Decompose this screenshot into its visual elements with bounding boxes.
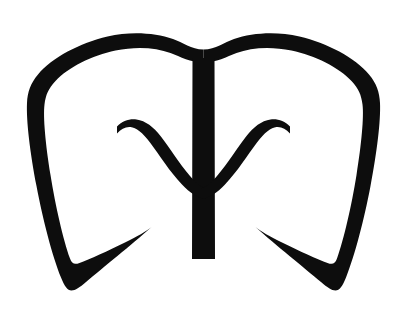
center-stem bbox=[192, 58, 215, 259]
image-canvas: Black brush-stroke logo: an open shield … bbox=[0, 0, 405, 319]
logo-mark-svg: Black brush-stroke logo: an open shield … bbox=[0, 0, 405, 319]
